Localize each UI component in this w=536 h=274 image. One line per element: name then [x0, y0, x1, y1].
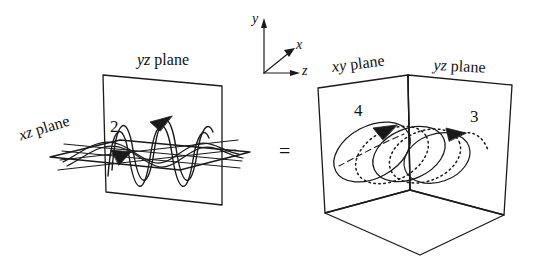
left-yz-plane-label: yz plane — [137, 52, 189, 68]
figure-canvas: y x z yz plane xz plane 2 = xy plane yz … — [0, 0, 536, 274]
right-diagram-group — [318, 75, 512, 255]
left-yz-plane-label-word: plane — [150, 51, 189, 68]
right-yz-plane-label-axes: yz — [433, 56, 447, 74]
right-floor-plane — [325, 190, 504, 255]
right-orbit-number-right: 3 — [470, 108, 479, 125]
right-xy-plane-wall — [318, 75, 410, 213]
figure-vector-layer — [0, 0, 536, 274]
equals-sign: = — [279, 141, 290, 161]
left-yz-plane-label-axes: yz — [137, 51, 150, 68]
axis-y-arrowhead — [261, 18, 267, 28]
axis-label-y: y — [252, 12, 258, 26]
axis-label-x: x — [296, 38, 302, 52]
left-component-number: 2 — [110, 118, 119, 135]
left-wave-arrowhead-upper — [150, 116, 172, 131]
axis-z-arrowhead — [290, 70, 300, 76]
left-diagram-group — [50, 75, 250, 205]
orbit-arrowhead-right — [446, 128, 466, 141]
right-yz-plane-label: yz plane — [433, 57, 486, 76]
right-orbit-number-left: 4 — [354, 102, 363, 119]
axis-x-line — [264, 52, 290, 73]
axis-triad — [261, 18, 300, 76]
orbit-arrowhead-left — [373, 125, 397, 140]
axis-label-z: z — [302, 64, 307, 78]
right-yz-plane-label-word: plane — [446, 57, 485, 76]
